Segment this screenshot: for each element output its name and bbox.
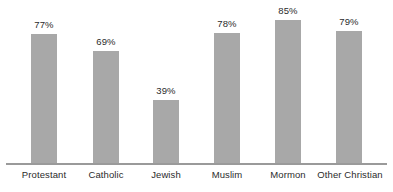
x-axis-line [6,163,387,165]
bar-value-label: 78% [196,18,258,29]
bar-rect[interactable] [93,51,119,164]
bar-value-label: 79% [318,16,380,27]
x-tick-label: Protestant [14,168,74,181]
bar-value-label: 85% [257,5,319,16]
bar-value-label: 77% [13,19,75,30]
x-axis-tick-labels: Protestant Catholic Jewish Muslim Mormon… [0,168,393,186]
x-tick-label: Mormon [258,168,318,181]
x-tick-label: Muslim [197,168,257,181]
bar-chart: 77% 69% 39% 78% 85% 79% Protestant Catho… [0,0,393,192]
bar-rect[interactable] [214,33,240,164]
bar-rect[interactable] [275,20,301,164]
bar-rect[interactable] [31,34,57,164]
bar-value-label: 69% [75,36,137,47]
x-tick-label: Jewish [136,168,196,181]
bar-value-label: 39% [135,85,197,96]
x-tick-label: Other Christian [311,168,389,181]
plot-area: 77% 69% 39% 78% 85% 79% [0,0,393,164]
bar-rect[interactable] [153,100,179,164]
x-tick-label: Catholic [76,168,136,181]
bar-rect[interactable] [336,31,362,164]
